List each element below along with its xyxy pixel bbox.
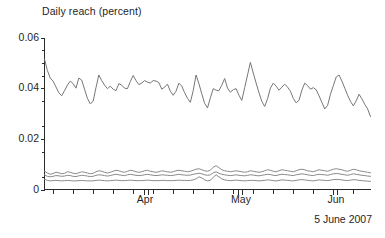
series-line-series-3-low-middle <box>45 172 371 177</box>
x-tick-label-may: May <box>231 193 251 205</box>
series-line-series-1-main <box>45 59 371 117</box>
x-axis-ticks <box>54 190 354 195</box>
series-line-series-2-low-upper <box>45 166 371 175</box>
axes <box>45 38 371 190</box>
x-tick-label-jun: Jun <box>328 193 345 205</box>
data-series-group <box>45 59 371 181</box>
x-tick-label-apr: Apr <box>137 193 153 205</box>
chart-container: Daily reach (percent) 0.06 0.04 0.02 0 A… <box>0 0 385 238</box>
chart-caption-date: 5 June 2007 <box>314 213 372 225</box>
y-axis-ticks <box>41 39 45 191</box>
